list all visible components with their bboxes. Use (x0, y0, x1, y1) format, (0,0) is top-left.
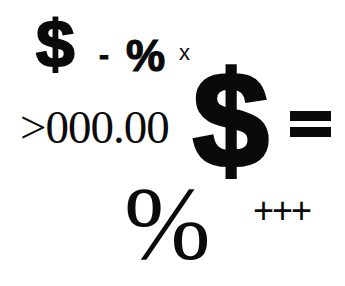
equals-bar-top (290, 111, 331, 121)
percent-sign-bold: % (126, 34, 165, 78)
dollar-sign-small: $ (36, 11, 75, 77)
minus-sign: - (99, 40, 109, 70)
plus-signs: +++ (253, 193, 310, 229)
number-text: >000.00 (20, 104, 169, 151)
multiply-sign: x (179, 42, 190, 64)
percent-sign-large: % (124, 172, 211, 276)
equals-bar-bottom (290, 127, 331, 137)
equals-sign (290, 111, 331, 137)
